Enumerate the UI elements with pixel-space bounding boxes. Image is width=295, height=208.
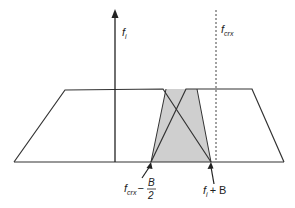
lower-left-label: fcrx− [124, 182, 144, 196]
frequency-diagram: fi fcrx fcrx− B 2 fi+ B [0, 0, 295, 208]
crx-label: fcrx [221, 23, 234, 37]
fraction-denominator: 2 [147, 190, 154, 201]
lower-right-label: fi+ B [203, 184, 226, 198]
fraction-numerator: B [148, 177, 155, 188]
axis-label: fi [122, 26, 127, 40]
axis-arrow-icon [112, 9, 119, 18]
arrow-right-pointer [211, 167, 214, 184]
arrow-left-head-icon [147, 162, 153, 169]
arrow-right-head-icon [208, 162, 214, 169]
